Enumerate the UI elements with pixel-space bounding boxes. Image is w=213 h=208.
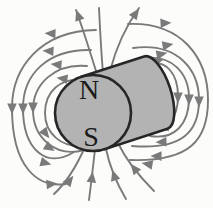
- diagram-canvas: N S: [0, 0, 213, 208]
- magnet-field-diagram: N S: [0, 0, 213, 208]
- south-pole-label: S: [83, 121, 99, 152]
- north-pole-label: N: [79, 74, 99, 105]
